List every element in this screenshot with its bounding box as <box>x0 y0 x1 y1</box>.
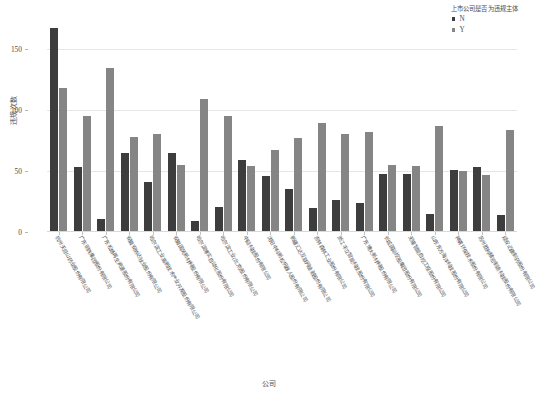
x-axis-category-label: 沈阳中科新松机器人股份有限公司 <box>265 234 309 303</box>
bar-n-13[interactable] <box>356 203 364 231</box>
bar-y-1[interactable] <box>83 116 91 231</box>
plot-area: 050100150 <box>47 18 517 232</box>
bar-y-15[interactable] <box>412 166 420 231</box>
bar-y-19[interactable] <box>506 130 514 231</box>
bar-n-6[interactable] <box>191 221 199 231</box>
bar-y-6[interactable] <box>200 99 208 231</box>
bar-n-2[interactable] <box>97 219 105 231</box>
bars-layer <box>47 18 517 232</box>
y-axis-tick-mark <box>25 49 28 50</box>
bar-n-9[interactable] <box>262 176 270 231</box>
bar-n-11[interactable] <box>309 208 317 231</box>
bar-n-7[interactable] <box>215 207 223 231</box>
x-axis-title: 公司 <box>0 378 539 388</box>
bar-n-14[interactable] <box>379 174 387 231</box>
bar-chart: 上市公司是否为违规主体 NY 违规次数 050100150 杭州天目山药业股份有… <box>0 0 539 409</box>
bar-n-5[interactable] <box>168 153 176 231</box>
bar-y-4[interactable] <box>153 134 161 231</box>
bar-n-3[interactable] <box>121 153 129 231</box>
bar-y-8[interactable] <box>247 166 255 231</box>
bar-y-18[interactable] <box>482 175 490 231</box>
bar-n-0[interactable] <box>50 28 58 231</box>
bar-y-14[interactable] <box>388 165 396 231</box>
bar-y-5[interactable] <box>177 165 185 231</box>
bar-n-8[interactable] <box>238 160 246 231</box>
x-axis-category-label: 新疆汇达互联网金融股份有限公司 <box>288 234 332 303</box>
bar-y-10[interactable] <box>294 138 302 231</box>
bar-y-11[interactable] <box>318 123 326 231</box>
bar-y-7[interactable] <box>224 116 232 231</box>
bar-n-15[interactable] <box>403 174 411 231</box>
y-axis-tick-mark <box>25 110 28 111</box>
bar-y-9[interactable] <box>271 150 279 231</box>
bar-y-16[interactable] <box>435 126 443 231</box>
bar-n-12[interactable] <box>332 200 340 231</box>
bar-n-18[interactable] <box>473 167 481 231</box>
bar-y-3[interactable] <box>130 137 138 231</box>
bar-y-17[interactable] <box>459 171 467 231</box>
y-axis-tick-label: 150 <box>0 44 22 53</box>
legend-title: 上市公司是否为违规主体 <box>451 4 539 13</box>
bar-n-1[interactable] <box>74 167 82 231</box>
bar-n-19[interactable] <box>497 215 505 231</box>
bar-n-17[interactable] <box>450 170 458 231</box>
y-axis-tick-mark <box>25 171 28 172</box>
y-axis-tick-label: 100 <box>0 105 22 114</box>
bar-n-4[interactable] <box>144 182 152 231</box>
bar-y-0[interactable] <box>59 88 67 231</box>
bar-y-2[interactable] <box>106 68 114 231</box>
bar-n-16[interactable] <box>426 214 434 231</box>
y-axis-tick-label: 0 <box>0 228 22 237</box>
bar-y-12[interactable] <box>341 134 349 231</box>
y-axis-tick-mark <box>25 232 28 233</box>
bar-y-13[interactable] <box>365 132 373 231</box>
x-axis-category-labels: 杭州天目山药业股份有限公司广东明珠集团股份有限公司广东松炀再生资源股份有限公司安… <box>47 234 517 374</box>
x-axis-category-label: 苏州胜利精密制造科技股份有限公司 <box>476 234 523 307</box>
bar-n-10[interactable] <box>285 189 293 231</box>
y-axis-tick-label: 50 <box>0 166 22 175</box>
